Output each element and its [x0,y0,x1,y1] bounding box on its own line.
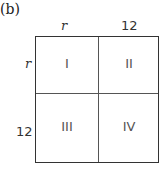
cell-label-II: II [98,56,160,71]
cell-label-I: I [36,56,98,71]
area-model-grid: I II III IV [35,36,159,163]
side-label-r: r [25,56,31,71]
cell-label-III: III [36,119,98,134]
side-label-12: 12 [16,124,33,139]
panel-label: (b) [0,1,20,17]
top-label-r: r [61,18,67,33]
horizontal-divider [36,93,158,94]
top-label-12: 12 [121,18,138,33]
cell-label-IV: IV [98,119,160,134]
